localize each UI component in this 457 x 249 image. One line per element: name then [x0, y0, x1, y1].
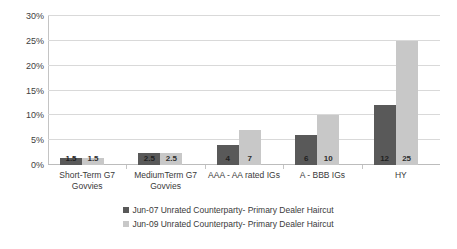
chart-legend: Jun-07 Unrated Counterparty- Primary Dea…: [0, 203, 457, 231]
bar-chart: 0%5%10%15%20%25%30% 1.51.52.52.547610122…: [0, 0, 457, 249]
y-axis-tick-label: 30%: [4, 12, 44, 21]
x-axis-category-label: Short-Term G7Govvies: [48, 170, 126, 192]
y-axis-tick-label: 15%: [4, 86, 44, 95]
bar-group: 1225: [362, 16, 440, 165]
y-axis-tick-labels: 0%5%10%15%20%25%30%: [0, 16, 44, 165]
bar-group: 1.51.5: [48, 16, 126, 165]
x-axis-category-label: A - BBB IGs: [283, 170, 361, 181]
bar-value-label: 1.5: [60, 155, 82, 163]
x-axis-category-label-line: AAA - AA rated IGs: [205, 170, 283, 181]
x-axis-category-label: AAA - AA rated IGs: [205, 170, 283, 181]
bar-jun09: [396, 41, 418, 165]
x-axis-category-label-line: Govvies: [126, 181, 204, 192]
x-axis-category-label-line: Short-Term G7: [48, 170, 126, 181]
bar-value-label: 2.5: [138, 155, 160, 163]
y-axis-tick-label: 25%: [4, 36, 44, 45]
bar-value-label: 2.5: [160, 155, 182, 163]
legend-label: Jun-07 Unrated Counterparty- Primary Dea…: [132, 205, 333, 215]
legend-swatch-icon: [123, 207, 129, 213]
bar-value-label: 10: [317, 155, 339, 163]
bar-value-label: 1.5: [82, 155, 104, 163]
plot-area: 1.51.52.52.5476101225: [48, 16, 440, 165]
bar-value-label: 6: [295, 155, 317, 163]
x-axis-tick-mark: [126, 165, 127, 169]
y-axis-tick-label: 10%: [4, 111, 44, 120]
bar-group: 47: [205, 16, 283, 165]
bar-value-label: 12: [374, 155, 396, 163]
bar-value-label: 7: [239, 155, 261, 163]
x-axis-category-label-line: Govvies: [48, 181, 126, 192]
x-axis-tick-mark: [205, 165, 206, 169]
x-axis-category-label: MediumTerm G7Govvies: [126, 170, 204, 192]
legend-label: Jun-09 Unrated Counterparty- Primary Dea…: [132, 219, 333, 229]
legend-item[interactable]: Jun-07 Unrated Counterparty- Primary Dea…: [0, 203, 457, 217]
x-axis-category-label-line: HY: [362, 170, 440, 181]
bar-value-label: 25: [396, 155, 418, 163]
bar-group: 610: [283, 16, 361, 165]
x-axis-category-label: HY: [362, 170, 440, 181]
y-axis-tick-label: 0%: [4, 161, 44, 170]
x-axis-category-label-line: A - BBB IGs: [283, 170, 361, 181]
legend-swatch-icon: [123, 221, 129, 227]
y-axis-tick-label: 20%: [4, 61, 44, 70]
x-axis-tick-mark: [283, 165, 284, 169]
x-axis-tick-mark: [362, 165, 363, 169]
bar-group: 2.52.5: [126, 16, 204, 165]
x-axis-category-label-line: MediumTerm G7: [126, 170, 204, 181]
bar-value-label: 4: [217, 155, 239, 163]
y-axis-tick-label: 5%: [4, 136, 44, 145]
legend-item[interactable]: Jun-09 Unrated Counterparty- Primary Dea…: [0, 217, 457, 231]
